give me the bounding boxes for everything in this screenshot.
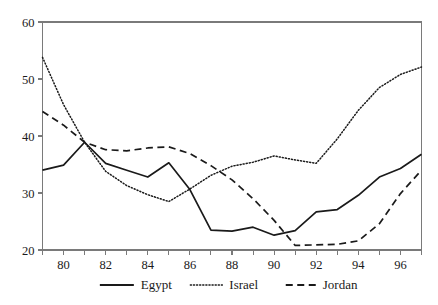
x-tick-label-82: 82 [99,258,112,272]
series-lines [43,57,422,245]
y-tick-label-60: 60 [22,16,35,30]
series-line-egypt [43,142,422,235]
series-line-jordan [43,111,422,245]
y-tick-label-50: 50 [22,73,35,87]
y-axis-ticks: 2030405060 [22,16,43,258]
y-tick-label-20: 20 [22,244,35,258]
chart-page: 2030405060 808284868890929496 EgyptIsrae… [0,0,438,305]
x-tick-label-92: 92 [310,258,323,272]
y-tick-label-40: 40 [22,130,35,144]
legend-label-israel: Israel [229,277,258,292]
y-tick-label-30: 30 [22,187,35,201]
x-tick-label-86: 86 [184,258,197,272]
x-tick-label-96: 96 [394,258,407,272]
line-chart: 2030405060 808284868890929496 EgyptIsrae… [0,0,438,305]
x-tick-label-80: 80 [57,258,70,272]
x-tick-label-88: 88 [226,258,239,272]
x-axis-ticks: 808284868890929496 [43,250,422,272]
legend-label-jordan: Jordan [323,277,358,292]
x-tick-label-94: 94 [352,258,365,272]
chart-legend: EgyptIsraelJordan [100,277,358,292]
legend-label-egypt: Egypt [141,277,172,292]
x-tick-label-90: 90 [268,258,281,272]
x-tick-label-84: 84 [142,258,155,272]
